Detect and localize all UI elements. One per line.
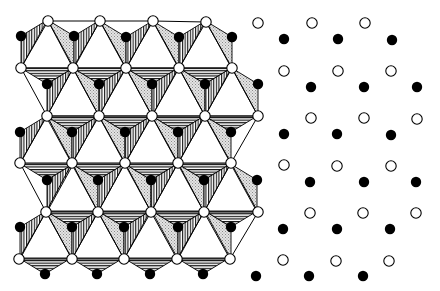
anion-circle xyxy=(412,114,422,124)
cation-dot xyxy=(174,32,184,42)
anion-circle xyxy=(331,256,341,266)
cation-dot xyxy=(306,82,316,92)
anion-circle xyxy=(253,111,263,121)
anion-circle xyxy=(173,158,183,168)
cation-dot xyxy=(199,175,209,185)
anion-circle xyxy=(120,158,130,168)
anion-circle xyxy=(15,158,25,168)
cation-dot xyxy=(173,222,183,232)
anion-circle xyxy=(148,16,158,26)
cation-dot xyxy=(278,224,288,234)
anion-circle xyxy=(95,16,105,26)
anion-circle xyxy=(67,254,77,264)
cation-dot xyxy=(69,31,79,41)
cation-dot xyxy=(359,82,369,92)
cation-dot xyxy=(332,129,342,139)
anion-circle xyxy=(119,254,129,264)
cation-dot xyxy=(42,175,52,185)
cation-dot xyxy=(15,127,25,137)
anion-circle xyxy=(68,63,78,73)
anion-circle xyxy=(332,161,342,171)
anion-circle xyxy=(172,254,182,264)
cation-dot xyxy=(332,224,342,234)
cation-dot xyxy=(305,177,315,187)
cation-dot xyxy=(252,175,262,185)
cation-dot xyxy=(279,129,289,139)
cation-dot xyxy=(412,82,422,92)
anion-circle xyxy=(278,255,288,265)
cation-dot xyxy=(227,32,237,42)
anion-circle xyxy=(386,161,396,171)
octahedron-face-left xyxy=(231,164,257,212)
anion-circle xyxy=(201,17,211,27)
cation-dot xyxy=(173,127,183,137)
anion-circle xyxy=(386,66,396,76)
cation-dot xyxy=(333,34,343,44)
cation-dot xyxy=(67,127,77,137)
anion-circle xyxy=(174,63,184,73)
anion-circle xyxy=(93,207,103,217)
anion-circle xyxy=(359,113,369,123)
cation-dot xyxy=(359,177,369,187)
cation-dot xyxy=(411,177,421,187)
anion-circle xyxy=(16,63,26,73)
crystal-structure-figure: Octahedral layer (polyhedral view) besid… xyxy=(0,0,440,291)
cation-dot xyxy=(304,271,314,281)
cation-dot xyxy=(226,222,236,232)
anion-circle xyxy=(41,207,51,217)
cation-dot xyxy=(94,79,104,89)
cation-dot xyxy=(385,224,395,234)
cation-dot xyxy=(253,79,263,89)
anion-circle xyxy=(43,16,53,26)
anion-circle xyxy=(199,207,209,217)
cation-dot xyxy=(40,269,50,279)
anion-circle xyxy=(253,207,263,217)
cation-dot xyxy=(226,127,236,137)
anion-circle xyxy=(253,18,263,28)
anion-circle xyxy=(360,18,370,28)
anion-circle xyxy=(42,111,52,121)
cation-dot xyxy=(146,175,156,185)
cation-dot xyxy=(16,31,26,41)
anion-circle xyxy=(121,63,131,73)
anion-circle xyxy=(226,158,236,168)
cation-dot xyxy=(121,32,131,42)
anion-circle xyxy=(146,207,156,217)
anion-circle xyxy=(279,160,289,170)
cation-dot xyxy=(145,269,155,279)
anion-circle xyxy=(200,111,210,121)
cation-dot xyxy=(198,269,208,279)
anion-circle xyxy=(306,113,316,123)
anion-circle xyxy=(14,254,24,264)
cation-dot xyxy=(387,35,397,45)
cation-dot xyxy=(15,222,25,232)
cation-dot xyxy=(279,34,289,44)
cation-dot xyxy=(67,222,77,232)
anion-circle xyxy=(305,208,315,218)
structure-diagram xyxy=(0,0,440,291)
anion-circle xyxy=(307,18,317,28)
anion-circle xyxy=(147,111,157,121)
cation-dot xyxy=(92,269,102,279)
cation-dot xyxy=(42,79,52,89)
anion-circle xyxy=(225,254,235,264)
anion-circle xyxy=(94,111,104,121)
octahedron-edge xyxy=(153,21,206,22)
cation-dot xyxy=(251,271,261,281)
cation-dot xyxy=(120,127,130,137)
anion-circle xyxy=(333,66,343,76)
cation-dot xyxy=(358,271,368,281)
anion-circle xyxy=(411,208,421,218)
cation-dot xyxy=(119,222,129,232)
anion-circle xyxy=(384,256,394,266)
cation-dot xyxy=(93,175,103,185)
cation-dot xyxy=(147,79,157,89)
anion-circle xyxy=(227,63,237,73)
cation-dot xyxy=(386,130,396,140)
cation-dot xyxy=(200,79,210,89)
anion-circle xyxy=(67,158,77,168)
anion-circle xyxy=(358,208,368,218)
anion-circle xyxy=(279,66,289,76)
